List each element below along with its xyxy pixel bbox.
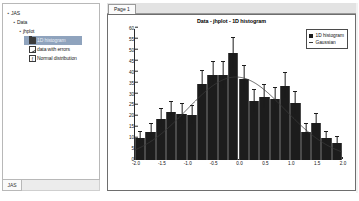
plot-panel: Page 1 Data - jhplot - 1D histogram 0510…: [107, 3, 356, 193]
y-axis-tick-label: 50: [120, 47, 134, 52]
y-axis-tick-label: 15: [120, 124, 134, 129]
tree-item-label: Normal distribution: [37, 54, 77, 63]
y-axis-tick-label: 5: [120, 146, 134, 151]
tree-item-data[interactable]: ▪Data: [3, 18, 99, 27]
y-axis-tick-label: 30: [120, 91, 134, 96]
y-axis-tick-label: 40: [120, 69, 134, 74]
x-axis-tick-label: 0.5: [262, 161, 268, 166]
chart-frame: 051015202530354045505560-2.0-1.5-1.0-0.5…: [114, 27, 350, 185]
function-icon: f: [29, 55, 36, 62]
data-tree-panel: ▪JAS▪Data▪jhplot1D histogramdata with er…: [2, 3, 100, 180]
x-axis-tick-label: 2.0: [340, 161, 346, 166]
tree-item-jhplot[interactable]: ▪jhplot: [3, 27, 99, 36]
legend-item[interactable]: Gaussian: [309, 39, 344, 46]
jas-tab[interactable]: JAS: [2, 180, 22, 191]
left-panel-bottom-strip: [22, 180, 100, 191]
application-window: ▪JAS▪Data▪jhplot1D histogramdata with er…: [0, 0, 359, 201]
chart-title: Data - jhplot - 1D histogram: [108, 18, 355, 24]
tree-item-label: Data: [17, 18, 27, 27]
plot-canvas[interactable]: Data - jhplot - 1D histogram 05101520253…: [107, 14, 356, 191]
legend-item-label: Gaussian: [315, 40, 335, 45]
x-axis-tick-mark: [342, 157, 343, 160]
chart-legend[interactable]: 1D histogramGaussian: [306, 29, 348, 49]
gaussian-curve-path: [135, 77, 342, 152]
tree-item-label: JAS: [11, 9, 20, 18]
x-axis-tick-label: -0.5: [210, 161, 218, 166]
y-axis-tick-label: 60: [120, 26, 134, 31]
tree-item-normal-distribution[interactable]: fNormal distribution: [3, 54, 99, 63]
y-axis-tick-label: 55: [120, 36, 134, 41]
window-right-gutter: [356, 3, 358, 193]
x-axis-tick-label: 1.0: [288, 161, 294, 166]
tab-page-1[interactable]: Page 1: [108, 4, 136, 14]
legend-line-marker-icon: [309, 42, 313, 44]
legend-item-label: 1D histogram: [315, 33, 344, 38]
data-tree[interactable]: ▪JAS▪Data▪jhplot1D histogramdata with er…: [3, 4, 99, 63]
tree-item-label: 1D histogram: [37, 36, 66, 45]
x-axis-tick-label: 1.5: [314, 161, 320, 166]
y-axis-tick-label: 35: [120, 80, 134, 85]
legend-square-marker-icon: [309, 34, 313, 38]
x-axis-tick-label: 0.0: [236, 161, 242, 166]
y-axis-tick-label: 45: [120, 58, 134, 63]
legend-item[interactable]: 1D histogram: [309, 32, 344, 39]
tree-item-jas[interactable]: ▪JAS: [3, 9, 99, 18]
tree-item-label: data with errors: [37, 45, 70, 54]
x-axis-tick-label: -1.0: [184, 161, 192, 166]
x-axis-tick-label: -1.5: [158, 161, 166, 166]
x-axis-tick-label: -2.0: [132, 161, 140, 166]
y-axis-tick-mark: [135, 27, 138, 28]
y-axis-tick-label: 20: [120, 113, 134, 118]
folder-icon: [29, 37, 36, 44]
plot-tabstrip: Page 1: [107, 3, 356, 14]
tree-item-label: jhplot: [23, 27, 34, 36]
tree-item-1d-histogram[interactable]: 1D histogram: [3, 36, 99, 45]
graph-icon: [29, 46, 36, 53]
tree-item-data-with-errors[interactable]: data with errors: [3, 45, 99, 54]
y-axis-tick-label: 10: [120, 135, 134, 140]
y-axis-tick-label: 25: [120, 102, 134, 107]
